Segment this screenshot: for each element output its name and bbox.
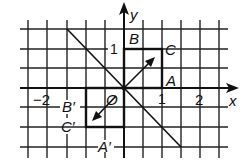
label-O: O — [106, 91, 118, 108]
label-C: C — [165, 41, 176, 58]
label-A: A — [165, 72, 176, 89]
label-A-prime: A′ — [97, 138, 112, 155]
tick-label-y-1: 1 — [110, 41, 118, 57]
label-C-prime: C′ — [61, 118, 76, 135]
label-B-prime: B′ — [62, 98, 76, 115]
label-B: B — [129, 30, 139, 47]
arrow-to-C — [124, 57, 155, 88]
x-axis-label: x — [228, 92, 237, 109]
coordinate-diagram: y x B C A O B′ C′ A′ −2 1 2 1 — [0, 0, 245, 165]
y-axis-label: y — [129, 6, 139, 23]
origin-point — [122, 86, 127, 91]
tick-label-x-neg2: −2 — [33, 91, 50, 108]
tick-label-x-1: 1 — [158, 91, 166, 107]
tick-label-x-2: 2 — [195, 91, 203, 108]
